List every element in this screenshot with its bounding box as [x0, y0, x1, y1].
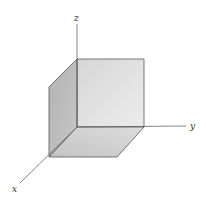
- cube-axes-diagram: z y x: [0, 0, 206, 200]
- z-axis-label: z: [73, 13, 79, 23]
- diagram-canvas: z y x: [0, 0, 206, 200]
- yz-face: [77, 59, 144, 127]
- y-axis-label: y: [189, 121, 196, 131]
- x-axis-label: x: [12, 184, 17, 194]
